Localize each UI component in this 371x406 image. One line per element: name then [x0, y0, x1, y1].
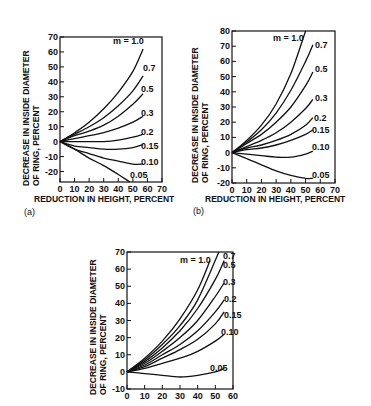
y-tick-label: 20 [220, 117, 230, 127]
curve-label-m-0.05: 0.05 [210, 363, 228, 373]
y-axis-label-a-line2: OF RING, PERCENT [31, 104, 41, 186]
y-tick-label: 40 [48, 77, 58, 87]
chart-panel-c: 706050403020100-100102030405060m = 1.00.… [112, 247, 242, 401]
curve-label-m-0.3: 0.3 [315, 93, 328, 103]
y-tick-label: 0 [53, 137, 58, 147]
y-tick-label: 70 [220, 41, 230, 51]
x-tick-label: 0 [57, 184, 62, 194]
y-tick-label: -20 [217, 178, 230, 188]
chart-panel-a: 706050403020100-10-20010203040506070m = … [45, 32, 167, 194]
curve-label-m-0.2: 0.2 [141, 127, 154, 137]
y-tick-label: 30 [220, 102, 230, 112]
curve-label-m-1.0: m = 1.0 [113, 36, 144, 46]
curve-m-0.5 [127, 261, 224, 372]
x-tick-label: 0 [124, 391, 129, 401]
curve-label-m-0.05: 0.05 [130, 170, 148, 180]
y-tick-label: 10 [115, 350, 125, 360]
y-tick-label: 60 [220, 56, 230, 66]
curve-label-m-0.2: 0.2 [314, 113, 327, 123]
curve-label-m-0.15: 0.15 [224, 310, 242, 320]
y-axis-label-a-line1: DECREASE IN INSIDE DIAMETER [21, 50, 31, 186]
plot-frame [232, 31, 335, 183]
y-tick-label: 30 [48, 92, 58, 102]
x-tick-label: 40 [113, 184, 123, 194]
curve-m-0.3 [127, 283, 224, 372]
x-tick-label: 60 [142, 184, 152, 194]
panel-label-a: (a) [24, 207, 35, 217]
y-tick-label: 70 [115, 247, 125, 257]
y-tick-label: 0 [225, 148, 230, 158]
y-axis-label-b-line2: OF RING, PERCENT [200, 101, 210, 183]
curve-label-m-0.15: 0.15 [141, 141, 159, 151]
x-tick-label: 30 [99, 184, 109, 194]
curve-label-m-0.2: 0.2 [224, 294, 237, 304]
curve-label-m-0.3: 0.3 [223, 277, 236, 287]
y-tick-label: 80 [220, 26, 230, 36]
curve-label-m-0.5: 0.5 [315, 64, 328, 74]
y-tick-label: 10 [48, 122, 58, 132]
x-tick-label: 10 [70, 184, 80, 194]
y-tick-label: 20 [48, 107, 58, 117]
curve-label-m-1.0: m = 1.0 [180, 255, 211, 265]
curve-label-m-0.5: 0.5 [141, 84, 154, 94]
y-tick-label: 20 [115, 333, 125, 343]
y-tick-label: 30 [115, 316, 125, 326]
y-axis-label-c-line1: DECREASE IN INSIDE DIAMETER [88, 259, 98, 395]
y-tick-label: 50 [48, 62, 58, 72]
chart-panel-b: 80706050403020100-10-20010203040506070m … [217, 26, 340, 195]
curve-label-m-0.5: 0.5 [223, 260, 236, 270]
x-axis-label-a: REDUCTION IN HEIGHT, PERCENT [34, 194, 175, 204]
curve-m-1.0 [60, 49, 143, 142]
curve-label-m-0.3: 0.3 [141, 108, 154, 118]
y-tick-label: 60 [48, 47, 58, 57]
y-tick-label: -10 [45, 152, 58, 162]
curve-label-m-0.7: 0.7 [143, 63, 156, 73]
x-tick-label: 50 [210, 391, 220, 401]
x-tick-label: 20 [157, 391, 167, 401]
curve-label-m-0.05: 0.05 [312, 170, 330, 180]
curve-label-m-0.10: 0.10 [312, 142, 330, 152]
x-tick-label: 50 [128, 184, 138, 194]
curve-m-0.10 [232, 151, 313, 157]
y-tick-label: 60 [115, 264, 125, 274]
y-tick-label: 0 [120, 367, 125, 377]
y-tick-label: -10 [217, 163, 230, 173]
curve-m-1.0 [232, 31, 306, 153]
panel-label-b: (b) [193, 206, 204, 216]
figure-canvas: 706050403020100-10-20010203040506070m = … [0, 0, 371, 406]
y-tick-label: 50 [115, 281, 125, 291]
x-tick-label: 70 [157, 184, 167, 194]
curve-label-m-0.10: 0.10 [141, 157, 159, 167]
y-tick-label: 50 [220, 72, 230, 82]
curve-label-m-0.15: 0.15 [312, 125, 330, 135]
y-tick-label: -20 [45, 167, 58, 177]
curve-m-0.7 [60, 76, 143, 142]
y-tick-label: 40 [220, 87, 230, 97]
x-axis-label-b: REDUCTION IN HEIGHT, PERCENT [205, 194, 346, 204]
x-tick-label: 40 [193, 391, 203, 401]
x-tick-label: 10 [140, 391, 150, 401]
y-tick-label: 70 [48, 32, 58, 42]
curve-m-0.5 [232, 72, 313, 153]
y-axis-label-b-line1: DECREASE IN INSIDE DIAMETER [190, 47, 200, 183]
curve-label-m-0.10: 0.10 [221, 327, 239, 337]
y-axis-label-c-line2: OF RING, PERCENT [98, 313, 108, 395]
x-tick-label: 30 [175, 391, 185, 401]
y-tick-label: -10 [112, 384, 125, 394]
y-tick-label: 40 [115, 298, 125, 308]
x-tick-label: 60 [228, 391, 238, 401]
y-tick-label: 10 [220, 132, 230, 142]
curve-label-m-1.0: m = 1.0 [273, 33, 304, 43]
curve-label-m-0.7: 0.7 [315, 40, 328, 50]
x-tick-label: 20 [84, 184, 94, 194]
